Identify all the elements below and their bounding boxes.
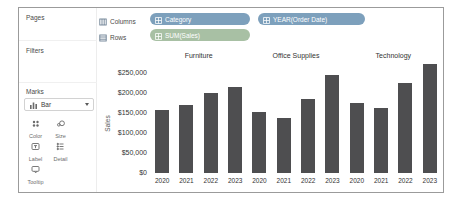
x-tick-label: 2020 <box>249 177 269 184</box>
sidebar: Pages Filters Marks Bar Color Size Label… <box>19 8 97 192</box>
y-tick-label: $50,000 <box>103 149 147 157</box>
tooltip-button[interactable]: Tooltip <box>23 160 48 180</box>
x-label-group: 2020202120222023 <box>247 177 344 184</box>
bar-mark-icon <box>29 96 38 114</box>
panel-title: Office Supplies <box>247 52 344 59</box>
size-button[interactable]: Size <box>48 114 73 134</box>
x-tick-label: 2021 <box>176 177 196 184</box>
x-axis-labels: 2020202120222023202020212022202320202021… <box>150 177 442 184</box>
bar-technology-2020[interactable] <box>350 103 364 173</box>
rows-pills: SUM(Sales) <box>150 29 250 41</box>
filters-card-label: Filters <box>26 47 44 54</box>
rows-shelf[interactable]: Rows <box>99 30 126 44</box>
color-icon <box>31 114 40 132</box>
x-label-group: 2020202120222023 <box>345 177 442 184</box>
x-label-group: 2020202120222023 <box>150 177 247 184</box>
bar-office-supplies-2022[interactable] <box>301 99 315 173</box>
rows-shelf-label: Rows <box>110 34 126 41</box>
card-divider <box>19 82 97 83</box>
label-button[interactable]: Label <box>23 137 48 157</box>
bar-technology-2022[interactable] <box>398 83 412 174</box>
panel-title: Furniture <box>150 52 247 59</box>
x-tick-label: 2023 <box>322 177 342 184</box>
pill-category[interactable]: Category <box>150 13 250 25</box>
y-tick-label: $0 <box>103 169 147 177</box>
chart-panel <box>150 62 247 173</box>
chart-panel <box>345 62 442 173</box>
bar-office-supplies-2023[interactable] <box>325 75 339 173</box>
pages-card-label: Pages <box>26 14 44 21</box>
pill-year-order-date-[interactable]: YEAR(Order Date) <box>258 13 365 25</box>
x-tick-label: 2020 <box>347 177 367 184</box>
marks-card-label: Marks <box>26 88 44 95</box>
x-tick-label: 2022 <box>298 177 318 184</box>
rows-shelf-icon <box>99 28 107 46</box>
color-button[interactable]: Color <box>23 114 48 134</box>
pill-sum-sales-[interactable]: SUM(Sales) <box>150 29 250 41</box>
panel-title: Technology <box>345 52 442 59</box>
bar-furniture-2023[interactable] <box>228 87 242 173</box>
bar-furniture-2022[interactable] <box>204 93 218 173</box>
bar-chart <box>150 62 442 173</box>
x-tick-label: 2023 <box>225 177 245 184</box>
label-icon <box>31 137 40 155</box>
panel-titles: FurnitureOffice SuppliesTechnology <box>150 52 442 59</box>
grid-icon <box>263 10 270 28</box>
mark-button-label: Tooltip <box>28 179 44 185</box>
x-tick-label: 2021 <box>274 177 294 184</box>
chevron-down-icon <box>85 103 89 106</box>
y-tick-label: $250,000 <box>103 69 147 77</box>
pill-label: Category <box>165 16 191 23</box>
bar-furniture-2021[interactable] <box>179 105 193 173</box>
pill-label: YEAR(Order Date) <box>273 16 327 23</box>
x-tick-label: 2022 <box>201 177 221 184</box>
columns-shelf-label: Columns <box>110 18 136 25</box>
x-tick-label: 2021 <box>371 177 391 184</box>
y-tick-label: $150,000 <box>103 109 147 117</box>
x-tick-label: 2023 <box>420 177 440 184</box>
bar-furniture-2020[interactable] <box>155 110 169 173</box>
bar-technology-2023[interactable] <box>423 64 437 173</box>
columns-pills: Category YEAR(Order Date) <box>150 13 365 25</box>
tooltip-icon <box>31 160 40 178</box>
bar-technology-2021[interactable] <box>374 108 388 173</box>
detail-icon <box>56 137 65 155</box>
mark-type-dropdown[interactable]: Bar <box>24 98 94 111</box>
mark-type-value: Bar <box>41 101 85 108</box>
mark-button-label: Detail <box>53 156 67 162</box>
marks-buttons: Color Size Label Detail Tooltip <box>23 114 97 183</box>
worksheet-frame: Pages Filters Marks Bar Color Size Label… <box>18 7 444 193</box>
chart-panel <box>247 62 344 173</box>
x-tick-label: 2020 <box>152 177 172 184</box>
bar-office-supplies-2021[interactable] <box>277 118 291 173</box>
y-tick-label: $100,000 <box>103 129 147 137</box>
detail-button[interactable]: Detail <box>48 137 73 157</box>
tableau-window: Pages Filters Marks Bar Color Size Label… <box>0 0 457 203</box>
pill-label: SUM(Sales) <box>165 32 200 39</box>
card-divider <box>19 40 97 41</box>
grid-icon <box>155 26 162 44</box>
x-tick-label: 2022 <box>395 177 415 184</box>
size-icon <box>56 114 65 132</box>
bar-office-supplies-2020[interactable] <box>252 112 266 173</box>
columns-shelf[interactable]: Columns <box>99 14 136 28</box>
y-tick-label: $200,000 <box>103 89 147 97</box>
